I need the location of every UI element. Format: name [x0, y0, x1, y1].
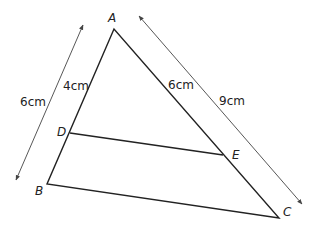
- measure-ae: 6cm: [168, 79, 194, 91]
- point-label-a: A: [108, 12, 116, 24]
- triangle-abc: [47, 29, 279, 218]
- triangle-diagram: [0, 0, 315, 231]
- segment-de: [70, 133, 223, 155]
- measure-ac: 9cm: [219, 95, 245, 107]
- point-label-c: C: [283, 206, 291, 218]
- point-label-e: E: [232, 149, 240, 161]
- measure-ab: 6cm: [20, 96, 46, 108]
- dimension-arrow-ac: [139, 16, 302, 204]
- point-label-b: B: [35, 185, 43, 197]
- point-label-d: D: [57, 126, 66, 138]
- measure-ad: 4cm: [63, 80, 89, 92]
